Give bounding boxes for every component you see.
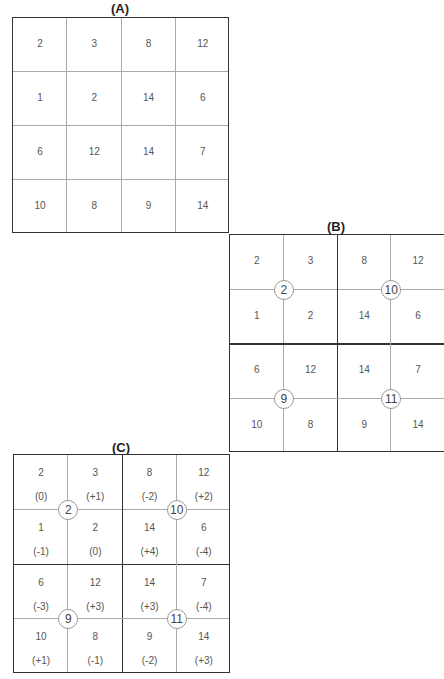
grid-hline <box>230 398 444 399</box>
grid-cell: 7(-4) <box>177 577 231 612</box>
cell-value: 1 <box>230 310 284 321</box>
grid-cell: 8 <box>122 38 176 49</box>
grid-cell: 2 <box>230 255 284 266</box>
cell-value: 14 <box>122 146 176 157</box>
cell-value: 9 <box>338 419 392 430</box>
cell-value: 14 <box>123 522 177 533</box>
cell-offset: (-2) <box>123 491 177 502</box>
pooled-value-circle: 9 <box>58 609 78 629</box>
cell-value: 6 <box>230 364 284 375</box>
cell-value: 14 <box>338 310 392 321</box>
cell-value: 7 <box>177 577 231 588</box>
grid-hline <box>14 618 229 619</box>
cell-value: 6 <box>14 577 68 588</box>
cell-value: 14 <box>338 364 392 375</box>
cell-value: 1 <box>14 522 68 533</box>
grid-cell: 8 <box>338 255 392 266</box>
grid-cell: 8(-1) <box>68 631 122 666</box>
grid-cell: 12 <box>67 146 121 157</box>
grid-cell: 2 <box>13 38 67 49</box>
panel-b-grid: 2381212146612147108914210911 <box>229 234 444 452</box>
grid-cell: 6 <box>13 146 67 157</box>
pooled-value-circle: 10 <box>381 280 401 300</box>
panel-b-title: (B) <box>306 219 366 234</box>
cell-offset: (0) <box>14 491 68 502</box>
cell-value: 8 <box>122 38 176 49</box>
grid-cell: 14 <box>122 146 176 157</box>
cell-value: 14 <box>123 577 177 588</box>
cell-value: 8 <box>68 631 122 642</box>
grid-cell: 12(+2) <box>177 467 231 502</box>
cell-value: 12 <box>67 146 121 157</box>
grid-cell: 3(+1) <box>68 467 122 502</box>
pooled-value-circle: 10 <box>167 500 187 520</box>
grid-cell: 10 <box>13 200 67 211</box>
cell-value: 14 <box>391 419 444 430</box>
cell-value: 8 <box>123 467 177 478</box>
pooled-value-circle: 11 <box>167 609 187 629</box>
cell-value: 12 <box>177 467 231 478</box>
panel-c-title: (C) <box>91 440 151 455</box>
pooled-value-circle: 9 <box>274 389 294 409</box>
cell-value: 6 <box>176 92 230 103</box>
cell-value: 10 <box>230 419 284 430</box>
cell-offset: (-4) <box>177 601 231 612</box>
cell-value: 3 <box>68 467 122 478</box>
cell-value: 12 <box>391 255 444 266</box>
cell-value: 8 <box>67 200 121 211</box>
grid-cell: 2(0) <box>14 467 68 502</box>
grid-cell: 2(0) <box>68 522 122 557</box>
grid-cell: 2 <box>67 92 121 103</box>
grid-cell: 7 <box>391 364 444 375</box>
grid-cell: 1 <box>13 92 67 103</box>
cell-value: 3 <box>67 38 121 49</box>
grid-cell: 1(-1) <box>14 522 68 557</box>
cell-value: 9 <box>123 631 177 642</box>
cell-value: 12 <box>68 577 122 588</box>
grid-cell: 6 <box>176 92 230 103</box>
cell-offset: (+3) <box>68 601 122 612</box>
grid-cell: 1 <box>230 310 284 321</box>
panel-a-title: (A) <box>90 1 150 16</box>
cell-value: 14 <box>177 631 231 642</box>
grid-cell: 9(-2) <box>123 631 177 666</box>
cell-offset: (+1) <box>14 655 68 666</box>
grid-cell: 12 <box>391 255 444 266</box>
cell-value: 14 <box>176 200 230 211</box>
grid-hline <box>14 564 229 566</box>
grid-cell: 7 <box>176 146 230 157</box>
grid-cell: 10(+1) <box>14 631 68 666</box>
cell-offset: (-2) <box>123 655 177 666</box>
grid-cell: 14(+3) <box>123 577 177 612</box>
cell-offset: (+4) <box>123 546 177 557</box>
cell-value: 6 <box>391 310 444 321</box>
cell-value: 2 <box>230 255 284 266</box>
grid-cell: 14 <box>391 419 444 430</box>
cell-value: 12 <box>176 38 230 49</box>
cell-offset: (-1) <box>14 546 68 557</box>
grid-cell: 14 <box>338 310 392 321</box>
grid-cell: 14(+3) <box>177 631 231 666</box>
grid-cell: 6 <box>230 364 284 375</box>
cell-value: 8 <box>338 255 392 266</box>
grid-cell: 12(+3) <box>68 577 122 612</box>
cell-value: 2 <box>284 310 338 321</box>
grid-cell: 3 <box>284 255 338 266</box>
grid-cell: 8 <box>284 419 338 430</box>
grid-cell: 10 <box>230 419 284 430</box>
grid-hline <box>230 343 444 345</box>
grid-hline <box>13 179 228 180</box>
grid-cell: 6(-3) <box>14 577 68 612</box>
cell-value: 7 <box>391 364 444 375</box>
cell-offset: (-3) <box>14 601 68 612</box>
cell-value: 14 <box>122 92 176 103</box>
pooled-value-circle: 2 <box>58 500 78 520</box>
cell-value: 2 <box>67 92 121 103</box>
cell-offset: (-1) <box>68 655 122 666</box>
grid-cell: 8(-2) <box>123 467 177 502</box>
grid-cell: 6 <box>391 310 444 321</box>
cell-value: 6 <box>177 522 231 533</box>
cell-value: 2 <box>13 38 67 49</box>
grid-cell: 14(+4) <box>123 522 177 557</box>
cell-value: 2 <box>68 522 122 533</box>
